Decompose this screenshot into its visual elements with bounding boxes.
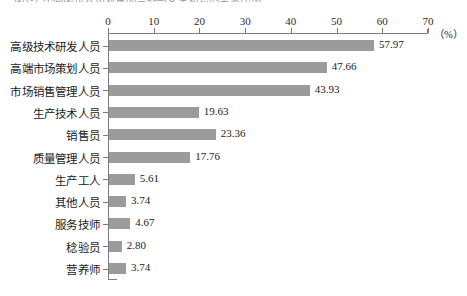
bar-category-label: 销售员 [66,127,100,143]
y-axis-tick [103,224,108,225]
x-axis-unit-label: （%） [434,26,463,41]
y-axis-foot [108,279,117,280]
bar-value-label: 17.76 [195,150,220,162]
bar-value-label: 3.74 [131,261,150,273]
x-axis-tick-label: 30 [240,15,251,27]
bar [109,107,199,118]
y-axis-tick [103,68,108,69]
x-axis-tick-label: 20 [194,15,205,27]
bar-value-label: 23.36 [221,127,246,139]
x-axis-tick [337,28,338,33]
x-axis-tick [108,28,109,33]
x-axis-tick [245,28,246,33]
bar-value-label: 4.67 [135,216,154,228]
y-axis-tick [103,46,108,47]
x-axis-tick-label: 40 [285,15,296,27]
bar [109,129,216,140]
y-axis-tick [103,112,108,113]
x-axis-line [108,33,428,34]
bar [109,85,310,96]
bar-category-label: 服务技师 [55,216,100,232]
bar [109,62,327,73]
bar-category-label: 稔验员 [66,239,100,255]
y-axis-tick [103,135,108,136]
bar [109,241,122,252]
bar [109,263,126,274]
bar-value-label: 5.61 [140,172,159,184]
horizontal-bar-chart: 010203040506070 （%） 高级技术研发人员57.97高端市场策划人… [0,0,467,296]
bar-category-label: 高级技术研发人员 [10,38,100,54]
x-axis-tick-label: 70 [423,15,434,27]
bar-category-label: 其他人员 [55,194,100,210]
bar-value-label: 2.80 [127,239,146,251]
chart-page: 图1-1 不同岗位人员对食品营养与安全知识的需求比例 0102030405060… [0,0,467,296]
bar-value-label: 57.97 [379,38,404,50]
bar-category-label: 质量管理人员 [33,150,100,166]
x-axis-tick [291,28,292,33]
bar-value-label: 43.93 [315,83,340,95]
x-axis-tick [428,28,429,33]
x-axis-tick [199,28,200,33]
bar-category-label: 营养师 [66,261,100,277]
y-axis-tick [103,179,108,180]
bar-value-label: 19.63 [204,105,229,117]
bar-category-label: 生产工人 [55,172,100,188]
y-axis-tick [103,202,108,203]
x-axis-tick-label: 60 [377,15,388,27]
y-axis-tick [103,90,108,91]
bar-category-label: 市场销售管理人员 [10,83,100,99]
x-axis-tick [382,28,383,33]
bar [109,174,135,185]
bar-value-label: 47.66 [332,60,357,72]
x-axis-tick-label: 50 [331,15,342,27]
bar [109,218,130,229]
x-axis-tick-label: 0 [105,15,111,27]
x-axis-tick-label: 10 [148,15,159,27]
bar-value-label: 3.74 [131,194,150,206]
bar-category-label: 高端市场策划人员 [10,60,100,76]
y-axis-tick [103,246,108,247]
bar-category-label: 生产技术人员 [33,105,100,121]
bar [109,152,190,163]
bar [109,196,126,207]
x-axis-tick [154,28,155,33]
y-axis-tick [103,157,108,158]
bar [109,40,374,51]
y-axis-tick [103,269,108,270]
